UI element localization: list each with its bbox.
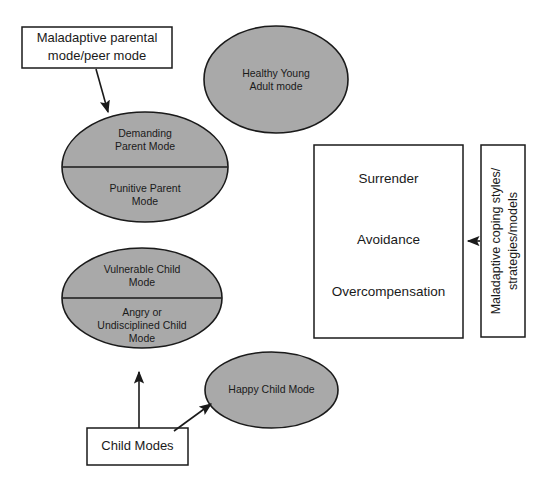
punitive-parent-mode-label-line2: Mode	[132, 195, 158, 207]
maladaptive-coping-label-line2: strategies/models	[506, 192, 520, 290]
angry-child-mode-label-line2: Undisciplined Child	[97, 319, 186, 331]
coping-item-overcompensation: Overcompensation	[332, 284, 445, 299]
demanding-parent-mode-label-line1: Demanding	[118, 127, 172, 139]
maladaptive-parental-label-line1: Maladaptive parental	[37, 30, 158, 45]
arrow-child-modes-to-happy-child	[174, 404, 211, 431]
maladaptive-parental-label-line2: mode/peer mode	[48, 48, 146, 63]
schema-mode-diagram: Healthy Young Adult mode Demanding Paren…	[0, 0, 549, 487]
coping-styles-box: Surrender Avoidance Overcompensation	[314, 145, 463, 338]
child-modes-label-box: Child Modes	[87, 428, 188, 465]
coping-item-surrender: Surrender	[358, 171, 419, 186]
arrow-parental-label-to-parent-ellipse	[96, 69, 108, 112]
node-healthy-young-adult-mode: Healthy Young Adult mode	[204, 26, 348, 133]
child-modes-label: Child Modes	[101, 438, 174, 453]
punitive-parent-mode-label-line1: Punitive Parent	[109, 182, 180, 194]
coping-item-avoidance: Avoidance	[357, 232, 420, 247]
vulnerable-child-mode-label-line1: Vulnerable Child	[104, 263, 181, 275]
angry-child-mode-label-line1: Angry or	[122, 306, 162, 318]
diagram-canvas: Healthy Young Adult mode Demanding Paren…	[0, 0, 549, 487]
happy-child-mode-label: Happy Child Mode	[228, 383, 315, 395]
node-child-modes: Vulnerable Child Mode Angry or Undiscipl…	[62, 248, 222, 348]
vulnerable-child-mode-label-line2: Mode	[129, 276, 155, 288]
healthy-young-adult-label-line2: Adult mode	[249, 80, 302, 92]
angry-child-mode-label-line3: Mode	[129, 332, 155, 344]
node-parent-modes: Demanding Parent Mode Punitive Parent Mo…	[62, 112, 228, 222]
maladaptive-coping-label-box: Maladaptive coping styles/ strategies/mo…	[481, 145, 525, 337]
healthy-young-adult-label-line1: Healthy Young	[242, 67, 310, 79]
demanding-parent-mode-label-line2: Parent Mode	[115, 140, 175, 152]
maladaptive-parental-label-box: Maladaptive parental mode/peer mode	[22, 27, 172, 68]
maladaptive-coping-label-line1: Maladaptive coping styles/	[489, 167, 503, 314]
node-happy-child-mode: Happy Child Mode	[205, 352, 338, 428]
